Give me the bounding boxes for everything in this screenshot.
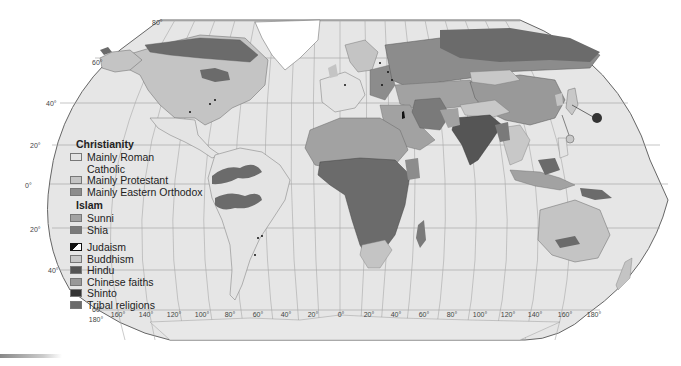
swatch-protestant xyxy=(70,176,82,184)
lon-label-40e: 40° xyxy=(391,311,402,318)
philippines xyxy=(558,138,568,158)
swatch-buddhism xyxy=(70,255,82,263)
siberia-tribal xyxy=(440,28,600,62)
swatch-shinto xyxy=(70,289,82,297)
buddhism-marker xyxy=(566,135,574,143)
legend-heading-islam: Islam xyxy=(76,199,230,211)
legend-item-eastern-orthodox: Mainly Eastern Orthodox xyxy=(70,186,230,198)
lon-label-20w: 20° xyxy=(308,311,319,318)
lon-label-160w: 160° xyxy=(111,311,125,318)
legend-heading-christianity: Christianity xyxy=(76,138,230,150)
lon-label-60e: 60° xyxy=(419,311,430,318)
swatch-chinese-faiths xyxy=(70,278,82,286)
lat-label-40s: 40° xyxy=(48,267,59,274)
lon-label-140w: 140° xyxy=(139,311,153,318)
legend-item-buddhism: Buddhism xyxy=(70,253,230,265)
legend-item-roman-catholic-cont: Catholic xyxy=(87,163,230,175)
lat-label-20n: 20° xyxy=(30,142,41,149)
legend-item-protestant: Mainly Protestant xyxy=(70,174,230,186)
legend-item-sunni: Sunni xyxy=(70,212,230,224)
decorative-gradient-bar xyxy=(0,354,62,358)
legend-item-judaism: Judaism xyxy=(70,241,230,253)
lon-label-80e: 80° xyxy=(447,311,458,318)
lon-label-0: 0° xyxy=(338,311,345,318)
legend-item-shinto: Shinto xyxy=(70,287,230,299)
lon-label-180e: 180° xyxy=(587,311,601,318)
swatch-eastern-orthodox xyxy=(70,188,82,196)
swatch-roman-catholic xyxy=(70,153,82,161)
lon-label-100w: 100° xyxy=(195,311,209,318)
lat-label-40n: 40° xyxy=(46,100,57,107)
shinto-marker xyxy=(592,113,602,123)
lon-label-140e: 140° xyxy=(528,311,542,318)
lon-label-100e: 100° xyxy=(473,311,487,318)
lat-label-20s: 20° xyxy=(30,226,41,233)
map-legend: Christianity Mainly Roman Catholic Mainl… xyxy=(70,138,230,310)
legend-item-hindu: Hindu xyxy=(70,264,230,276)
legend-item-shia: Shia xyxy=(70,224,230,236)
legend-item-tribal: Tribal religions xyxy=(70,299,230,311)
lon-label-80w: 80° xyxy=(225,311,236,318)
lat-label-80n: 80° xyxy=(152,19,163,26)
lon-label-40w: 40° xyxy=(281,311,292,318)
legend-item-chinese-faiths: Chinese faiths xyxy=(70,276,230,288)
swatch-judaism xyxy=(70,243,82,251)
lon-label-60w: 60° xyxy=(253,311,264,318)
legend-item-roman-catholic: Mainly Roman xyxy=(70,151,230,163)
lon-label-160e: 160° xyxy=(558,311,572,318)
swatch-shia xyxy=(70,226,82,234)
lat-label-0: 0° xyxy=(25,182,32,189)
lon-label-120w: 120° xyxy=(167,311,181,318)
lon-label-120e: 120° xyxy=(501,311,515,318)
lon-label-180w: 180° xyxy=(89,316,103,323)
lat-label-60n: 60° xyxy=(92,59,103,66)
swatch-sunni xyxy=(70,214,82,222)
lon-label-20e: 20° xyxy=(364,311,375,318)
swatch-tribal xyxy=(70,301,82,309)
swatch-hindu xyxy=(70,266,82,274)
